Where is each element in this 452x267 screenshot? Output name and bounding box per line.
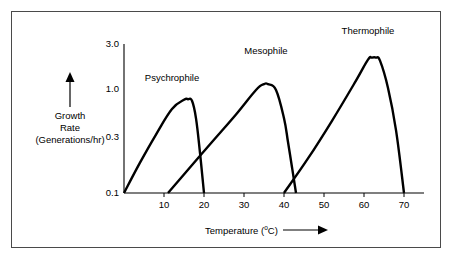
y-tick-label-3.0: 3.0 — [106, 38, 119, 49]
figure-page: 3.0 1.0 0.3 0.1 10 20 30 40 50 60 70 — [0, 0, 452, 267]
x-tick-label-20: 20 — [199, 199, 210, 210]
x-tick-label-30: 30 — [239, 199, 250, 210]
x-axis-title-unit: C) — [268, 225, 278, 236]
x-tick-label-60: 60 — [359, 199, 370, 210]
y-tick-label-1.0: 1.0 — [106, 83, 119, 94]
y-axis-arrow-head — [66, 72, 75, 82]
curve-psychrophile — [124, 99, 204, 193]
y-tick-label-0.1: 0.1 — [106, 187, 119, 198]
y-axis-title-line3: (Generations/hr) — [35, 134, 104, 145]
curve-thermophile — [284, 57, 404, 193]
x-axis-title: Temperature (oC) — [205, 224, 278, 236]
x-axis-arrow-head — [318, 226, 328, 235]
curve-label-mesophile: Mesophile — [244, 45, 287, 56]
growth-rate-temperature-chart: 3.0 1.0 0.3 0.1 10 20 30 40 50 60 70 — [12, 12, 440, 247]
curve-label-psychrophile: Psychrophile — [145, 72, 199, 83]
y-axis-title-line1: Growth — [55, 110, 86, 121]
x-axis-title-text: Temperature ( — [205, 225, 265, 236]
y-tick-label-0.3: 0.3 — [106, 131, 119, 142]
y-axis-title-line2: Rate — [60, 122, 80, 133]
x-tick-label-70: 70 — [399, 199, 410, 210]
x-tick-label-10: 10 — [159, 199, 170, 210]
x-tick-label-50: 50 — [319, 199, 330, 210]
figure-frame: 3.0 1.0 0.3 0.1 10 20 30 40 50 60 70 — [11, 11, 441, 248]
curve-label-thermophile: Thermophile — [342, 25, 395, 36]
x-tick-label-40: 40 — [279, 199, 290, 210]
